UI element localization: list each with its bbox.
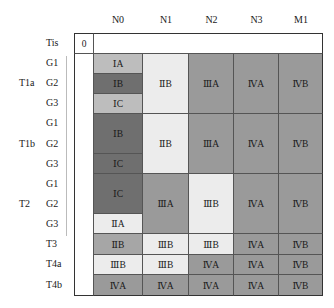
col-header-m1: M1 — [279, 12, 323, 28]
group-bracket — [66, 56, 67, 236]
cell-t4a-m1: ⅣB — [279, 255, 323, 275]
row-header-tis: Tis — [46, 33, 58, 53]
cell-t4a-n1: ⅢB — [143, 255, 189, 275]
cell-t1b-g3-n0: ⅠC — [94, 154, 143, 174]
row-header-t2-g1: G1 — [46, 174, 58, 194]
row-header-t4a: T4a — [46, 254, 62, 274]
row-header-t1a-g1: G1 — [46, 53, 58, 73]
tis-empty-cell — [94, 33, 323, 54]
cell-t1b-n3: ⅣA — [234, 114, 279, 174]
cell-t2-n2: ⅢB — [189, 174, 234, 234]
cell-t1a-g1-n0: ⅠA — [94, 54, 143, 74]
cell-t1b-n1: ⅡB — [143, 114, 189, 174]
cell-t3-m1: ⅣB — [279, 234, 323, 255]
row-header-t3: T3 — [46, 234, 57, 254]
cell-t3-n0: ⅡB — [94, 234, 143, 255]
col-header-n2: N2 — [189, 12, 234, 28]
col-header-n3: N3 — [234, 12, 279, 28]
cell-t2-m1: ⅣB — [279, 174, 323, 234]
cell-t4a-n2: ⅣA — [189, 255, 234, 275]
cell-t1b-n2: ⅢA — [189, 114, 234, 174]
cell-t4b-n1: ⅣA — [143, 275, 189, 296]
cell-t4b-n0: ⅣA — [94, 275, 143, 296]
cell-t3-n2: ⅢB — [189, 234, 234, 255]
blank-column — [74, 54, 94, 296]
group-label-t1b: T1b — [19, 134, 35, 154]
row-header-t2-g3: G3 — [46, 214, 58, 234]
cell-t4a-n3: ⅣA — [234, 255, 279, 275]
cell-t2-n1: ⅢA — [143, 174, 189, 234]
row-header-t1a-g3: G3 — [46, 93, 58, 113]
tis-stage-cell: 0 — [74, 33, 94, 54]
cell-t1b-g12-n0: ⅠB — [94, 114, 143, 154]
cell-t1a-m1: ⅣB — [279, 54, 323, 114]
cell-t2-n3: ⅣA — [234, 174, 279, 234]
cell-t1a-n2: ⅢA — [189, 54, 234, 114]
row-header-t2-g2: G2 — [46, 194, 58, 214]
cell-t1b-m1: ⅣB — [279, 114, 323, 174]
row-header-t1a-g2: G2 — [46, 73, 58, 93]
cell-t3-n1: ⅢB — [143, 234, 189, 255]
cell-t4a-n0: ⅢB — [94, 255, 143, 275]
cell-t2-g3-n0: ⅡA — [94, 214, 143, 234]
group-label-t1a: T1a — [19, 73, 35, 93]
cell-t4b-n2: ⅣA — [189, 275, 234, 296]
row-header-t1b-g3: G3 — [46, 154, 58, 174]
row-header-t4b: T4b — [46, 275, 62, 295]
cell-t1a-g2-n0: ⅠB — [94, 74, 143, 94]
cell-t3-n3: ⅣA — [234, 234, 279, 255]
cell-t1a-n1: ⅡB — [143, 54, 189, 114]
col-header-n0: N0 — [93, 12, 143, 28]
row-header-t1b-g1: G1 — [46, 113, 58, 133]
cell-t2-g12-n0: ⅠC — [94, 174, 143, 214]
cell-t4b-n3: ⅣA — [234, 275, 279, 296]
cell-t1a-n3: ⅣA — [234, 54, 279, 114]
col-header-n1: N1 — [143, 12, 189, 28]
cell-t4b-m1: ⅣB — [279, 275, 323, 296]
group-label-t2: T2 — [19, 194, 30, 214]
cell-t1a-g3-n0: ⅠC — [94, 94, 143, 114]
row-header-t1b-g2: G2 — [46, 134, 58, 154]
